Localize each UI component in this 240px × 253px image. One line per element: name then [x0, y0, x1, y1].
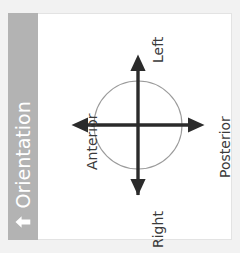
orientation-diagram: Left Right Anterior Posterior	[38, 13, 232, 240]
axis-label-posterior: Posterior	[218, 116, 232, 178]
axis-label-right: Right	[151, 211, 165, 248]
sidebar-content: Orientation	[8, 13, 38, 240]
orientation-widget: Orientation Left	[0, 0, 240, 253]
axis-label-anterior: Anterior	[85, 113, 99, 170]
orientation-sidebar[interactable]: Orientation	[8, 13, 38, 240]
axis-label-left: Left	[151, 37, 165, 63]
up-arrow-icon	[15, 215, 31, 228]
sidebar-title: Orientation	[8, 101, 38, 208]
